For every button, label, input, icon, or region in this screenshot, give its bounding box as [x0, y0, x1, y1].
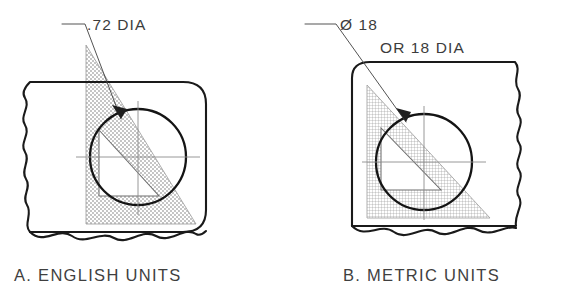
caption-english-units: A. ENGLISH UNITS — [14, 266, 182, 284]
break-line-bottom-metric — [352, 226, 516, 235]
dimension-note-metric-alternate: OR 18 DIA — [380, 39, 465, 56]
panel-english-units: .72 DIA A. ENGLISH UNITS — [14, 16, 206, 284]
caption-metric-units: B. METRIC UNITS — [343, 266, 500, 284]
dimension-note-english: .72 DIA — [87, 16, 146, 33]
panel-metric-units: Ø 18 OR 18 DIA B. METRIC UNITS — [305, 16, 521, 284]
drawing-canvas: .72 DIA A. ENGLISH UNITS Ø 18 OR 18 DIA — [0, 0, 573, 307]
technical-drawing-figure: .72 DIA A. ENGLISH UNITS Ø 18 OR 18 DIA — [0, 0, 573, 307]
dimension-note-metric-symbol: Ø 18 — [340, 16, 378, 33]
